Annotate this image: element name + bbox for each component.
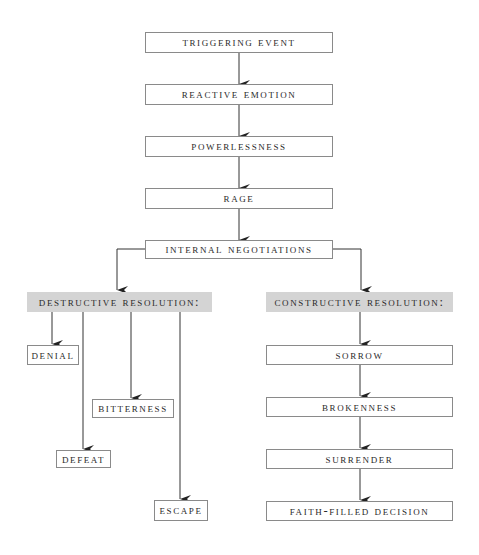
node-reactive-emotion: Reactive Emotion — [145, 84, 333, 105]
node-sorrow: Sorrow — [266, 345, 453, 365]
node-label: Brokenness — [322, 400, 397, 415]
node-label: Reactive Emotion — [182, 87, 297, 102]
node-label: Surrender — [326, 452, 394, 467]
node-rage: Rage — [145, 188, 333, 209]
constructive-resolution-header: Constructive Resolution: — [266, 292, 453, 312]
node-bitterness: Bitterness — [92, 399, 174, 418]
header-label: Destructive Resolution: — [39, 295, 200, 310]
node-label: Escape — [159, 503, 202, 518]
node-label: Sorrow — [335, 348, 383, 363]
node-triggering-event: Triggering Event — [145, 32, 333, 53]
node-label: Rage — [224, 191, 255, 206]
node-label: Bitterness — [98, 401, 168, 416]
header-label: Constructive Resolution: — [275, 295, 445, 310]
node-internal-negotiations: Internal Negotiations — [145, 240, 333, 259]
node-faith-filled-decision: Faith-Filled Decision — [266, 501, 453, 521]
node-brokenness: Brokenness — [266, 397, 453, 417]
node-defeat: Defeat — [56, 450, 111, 468]
node-powerlessness: Powerlessness — [145, 136, 333, 157]
node-label: Powerlessness — [191, 139, 286, 154]
node-label: Faith-Filled Decision — [290, 504, 430, 519]
node-surrender: Surrender — [266, 449, 453, 469]
node-label: Denial — [31, 348, 74, 363]
node-denial: Denial — [27, 345, 79, 365]
destructive-resolution-header: Destructive Resolution: — [27, 292, 212, 312]
node-label: Internal Negotiations — [165, 242, 312, 257]
node-label: Triggering Event — [182, 35, 295, 50]
node-escape: Escape — [154, 500, 208, 521]
node-label: Defeat — [62, 452, 105, 467]
